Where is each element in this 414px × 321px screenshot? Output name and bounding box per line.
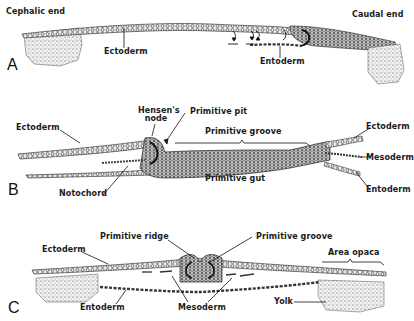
panel-letter-b: B [8, 182, 19, 198]
label-hensens-node: Hensen's node [138, 107, 174, 123]
label-entoderm-b: Entoderm [366, 186, 411, 194]
label-primitive-groove-c: Primitive groove [256, 233, 333, 241]
label-primitive-gut: Primitive gut [205, 175, 265, 183]
label-notochord: Notochord [59, 190, 107, 198]
panel-letter-a: A [7, 57, 18, 73]
label-caudal-end: Caudal end [352, 11, 403, 19]
label-ectoderm-a: Ectoderm [104, 48, 148, 56]
label-primitive-groove-b: Primitive groove [205, 128, 282, 136]
label-cephalic-end: Cephalic end [6, 8, 65, 16]
label-entoderm-c: Entoderm [80, 304, 125, 312]
label-area-opaca: Area opaca [328, 249, 380, 257]
label-primitive-ridge: Primitive ridge [100, 233, 169, 241]
label-ectoderm-c: Ectoderm [42, 246, 86, 254]
label-mesoderm-c: Mesoderm [178, 304, 226, 312]
panel-b-drawing [18, 113, 370, 195]
label-entoderm-a: Entoderm [260, 58, 305, 66]
label-ectoderm-b-right: Ectoderm [366, 123, 410, 131]
label-hensens-node-line2: node [138, 115, 174, 123]
label-ectoderm-b-left: Ectoderm [16, 124, 60, 132]
label-primitive-pit: Primitive pit [190, 108, 247, 116]
label-yolk: Yolk [274, 298, 293, 306]
panel-a-drawing [22, 23, 404, 84]
panel-letter-c: C [8, 300, 20, 316]
label-mesoderm-b: Mesoderm [366, 154, 414, 162]
